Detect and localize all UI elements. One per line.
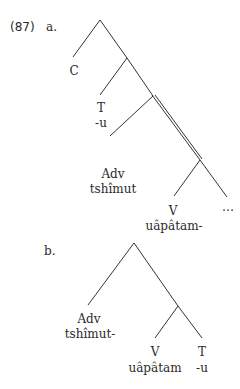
tree-a-node-v: V <box>169 204 178 218</box>
tree-a-branch-t <box>100 58 127 95</box>
tree-b-node-t-morph: -u <box>196 361 208 375</box>
tree-b-node-adv: Adv <box>77 312 100 326</box>
tree-a-double-line-inner <box>155 95 202 159</box>
tree-b-branch-v <box>155 306 178 338</box>
tree-a-branch-ellipsis <box>200 160 227 197</box>
tree-b-node-t: T <box>198 345 206 359</box>
subexample-a-label: a. <box>46 20 57 34</box>
tree-b-branch-t <box>178 306 202 338</box>
subexample-b-label: b. <box>44 244 56 258</box>
tree-b-node-v: V <box>151 345 160 359</box>
tree-a-branch-right-2 <box>127 58 153 96</box>
tree-a-branch-adv <box>110 96 153 136</box>
tree-a-branch-right-1 <box>100 20 127 58</box>
tree-a-node-ellipsis: … <box>222 200 234 214</box>
tree-a-node-adv: Adv <box>101 167 124 181</box>
tree-b-branch-right <box>134 243 178 306</box>
tree-a-node-adv-morph: tshîmut <box>90 182 136 196</box>
tree-b-branch-adv <box>88 243 134 305</box>
tree-a-node-c: C <box>69 64 78 78</box>
tree-a-double-line-outer <box>152 95 200 160</box>
tree-a-node-t: T <box>97 101 105 115</box>
tree-a-branch-c <box>73 20 100 57</box>
tree-b-node-adv-morph: tshîmut- <box>65 327 116 341</box>
tree-b-node-v-morph: uâpâtam <box>128 361 181 375</box>
tree-a-node-v-morph: uâpâtam- <box>145 219 202 233</box>
tree-a-node-t-morph: -u <box>95 116 107 130</box>
tree-a-branch-v <box>174 160 200 196</box>
example-number: (87) <box>10 20 35 34</box>
